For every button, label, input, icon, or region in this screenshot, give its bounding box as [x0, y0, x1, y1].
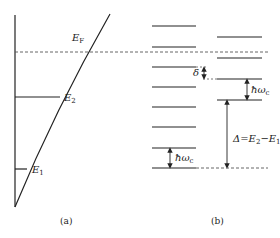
e1-label: E1: [31, 164, 44, 177]
landau-level-diagram: EF E2 E1 (a) δ ħωc: [0, 0, 280, 238]
hw-label-right: ħωc: [251, 84, 270, 97]
panel-a: EF E2 E1 (a): [15, 14, 110, 226]
caption-a: (a): [60, 216, 72, 226]
hw-label-left: ħωc: [175, 152, 194, 165]
left-landau-levels: [152, 26, 196, 168]
panel-b: δ ħωc Δ=E2−E1 ħωc (b): [152, 26, 280, 226]
caption-b: (b): [211, 216, 224, 226]
gap-label: Δ=E2−E1: [232, 133, 280, 146]
fermi-energy-label: EF: [71, 32, 84, 45]
delta-label: δ: [193, 67, 199, 78]
e2-label: E2: [63, 92, 76, 105]
dispersion-curve: [15, 14, 110, 207]
